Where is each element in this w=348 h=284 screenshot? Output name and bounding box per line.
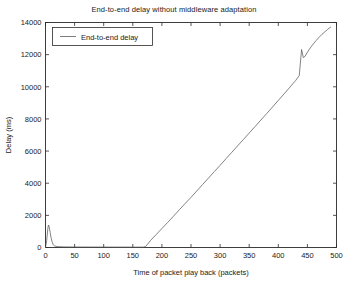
x-tick-label: 300 [214,251,227,260]
x-tick-label: 250 [185,251,198,260]
x-tick-label: 350 [243,251,256,260]
x-tick-label: 400 [272,251,285,260]
y-tick-label: 4000 [25,179,42,188]
chart-figure: End-to-end delay without middleware adap… [0,0,348,284]
y-axis-tick-labels: 02000400060008000100001200014000 [21,18,42,252]
y-tick-label: 8000 [25,115,42,124]
y-tick-label: 14000 [21,18,42,27]
y-tick-label: 6000 [25,147,42,156]
data-series-line [46,27,331,248]
legend-entry-label: End-to-end delay [81,33,138,42]
y-axis-ticks [46,23,337,248]
x-tick-label: 150 [127,251,140,260]
x-tick-label: 100 [97,251,110,260]
y-tick-label: 10000 [21,83,42,92]
y-tick-label: 0 [37,243,41,252]
x-axis-label: Time of packet play back (packets) [133,268,249,277]
y-tick-label: 12000 [21,50,42,59]
x-axis-ticks [46,23,337,248]
chart-plot-area: 050100150200250300350400450500 020004000… [0,0,348,284]
plot-frame [46,23,337,248]
y-axis-label: Delay (ms) [4,116,13,153]
x-tick-label: 200 [156,251,169,260]
x-axis-tick-labels: 050100150200250300350400450500 [43,251,342,260]
x-tick-label: 450 [301,251,314,260]
x-tick-label: 50 [70,251,78,260]
y-tick-label: 2000 [25,211,42,220]
chart-legend: End-to-end delay [53,28,153,46]
x-tick-label: 500 [330,251,343,260]
x-tick-label: 0 [43,251,47,260]
